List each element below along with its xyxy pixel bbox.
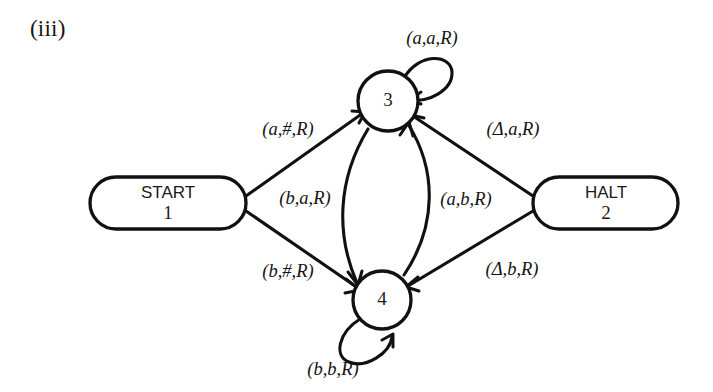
node-state-3[interactable]: 3 bbox=[358, 71, 418, 131]
edge-label-3-to-4: (b,a,R) bbox=[279, 188, 330, 209]
node-start-number: 1 bbox=[163, 202, 173, 223]
edge-label-3-self-loop: (a,a,R) bbox=[406, 28, 457, 49]
edge-label-4-to-3: (a,b,R) bbox=[440, 189, 491, 210]
edge-3-to-4 bbox=[343, 129, 368, 285]
edge-4-to-3 bbox=[400, 122, 429, 275]
node-state-4[interactable]: 4 bbox=[353, 271, 411, 329]
node-state-3-number: 3 bbox=[383, 89, 393, 110]
edge-label-start-to-4: (b,#,R) bbox=[262, 261, 313, 282]
state-diagram: START 1 HALT 2 3 4 (a,#,R) (b,#,R) (b,a,… bbox=[0, 0, 713, 392]
edge-label-halt-to-4: (Δ,b,R) bbox=[486, 259, 539, 280]
node-start-name: START bbox=[141, 183, 195, 202]
node-start[interactable]: START 1 bbox=[90, 177, 246, 229]
node-halt-name: HALT bbox=[585, 183, 627, 202]
edge-label-halt-to-3: (Δ,a,R) bbox=[487, 119, 540, 140]
edge-label-start-to-3: (a,#,R) bbox=[262, 119, 313, 140]
figure-canvas: (iii) bbox=[0, 0, 713, 392]
node-state-4-number: 4 bbox=[377, 288, 387, 309]
node-halt[interactable]: HALT 2 bbox=[533, 177, 678, 229]
edge-label-4-self-loop: (b,b,R) bbox=[307, 359, 358, 380]
node-halt-number: 2 bbox=[601, 202, 611, 223]
